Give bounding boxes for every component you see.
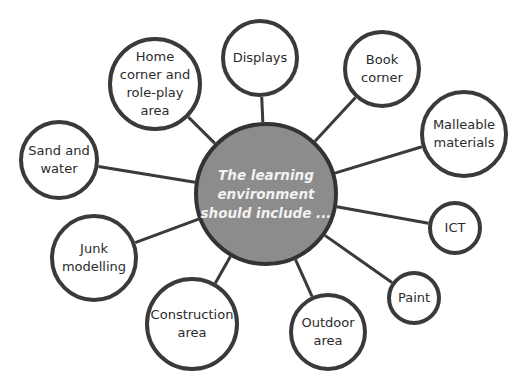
node-label: Displays	[233, 49, 288, 67]
node-label: Malleable materials	[433, 116, 495, 152]
node-label: ICT	[445, 219, 466, 237]
node-displays: Displays	[221, 19, 299, 97]
node-junk-modelling: Junk modelling	[50, 214, 138, 302]
node-paint: Paint	[387, 271, 441, 325]
node-label: Outdoor area	[301, 314, 354, 350]
hub-label: The learning environment should include …	[201, 166, 332, 223]
node-label: Sand and water	[28, 142, 89, 178]
node-label: Paint	[398, 289, 430, 307]
node-book-corner: Book corner	[343, 30, 421, 108]
node-sand-and-water: Sand and water	[19, 120, 99, 200]
node-malleable-materials: Malleable materials	[420, 90, 508, 178]
node-label: Book corner	[361, 51, 403, 87]
node-home-corner: Home corner and role-play area	[108, 37, 202, 131]
node-construction-area: Construction area	[145, 277, 239, 371]
central-hub-circle: The learning environment should include …	[194, 122, 338, 266]
node-label: Junk modelling	[62, 240, 126, 276]
node-label: Construction area	[151, 306, 234, 342]
node-outdoor-area: Outdoor area	[289, 293, 367, 371]
node-label: Home corner and role-play area	[120, 48, 190, 120]
node-ict: ICT	[428, 201, 482, 255]
